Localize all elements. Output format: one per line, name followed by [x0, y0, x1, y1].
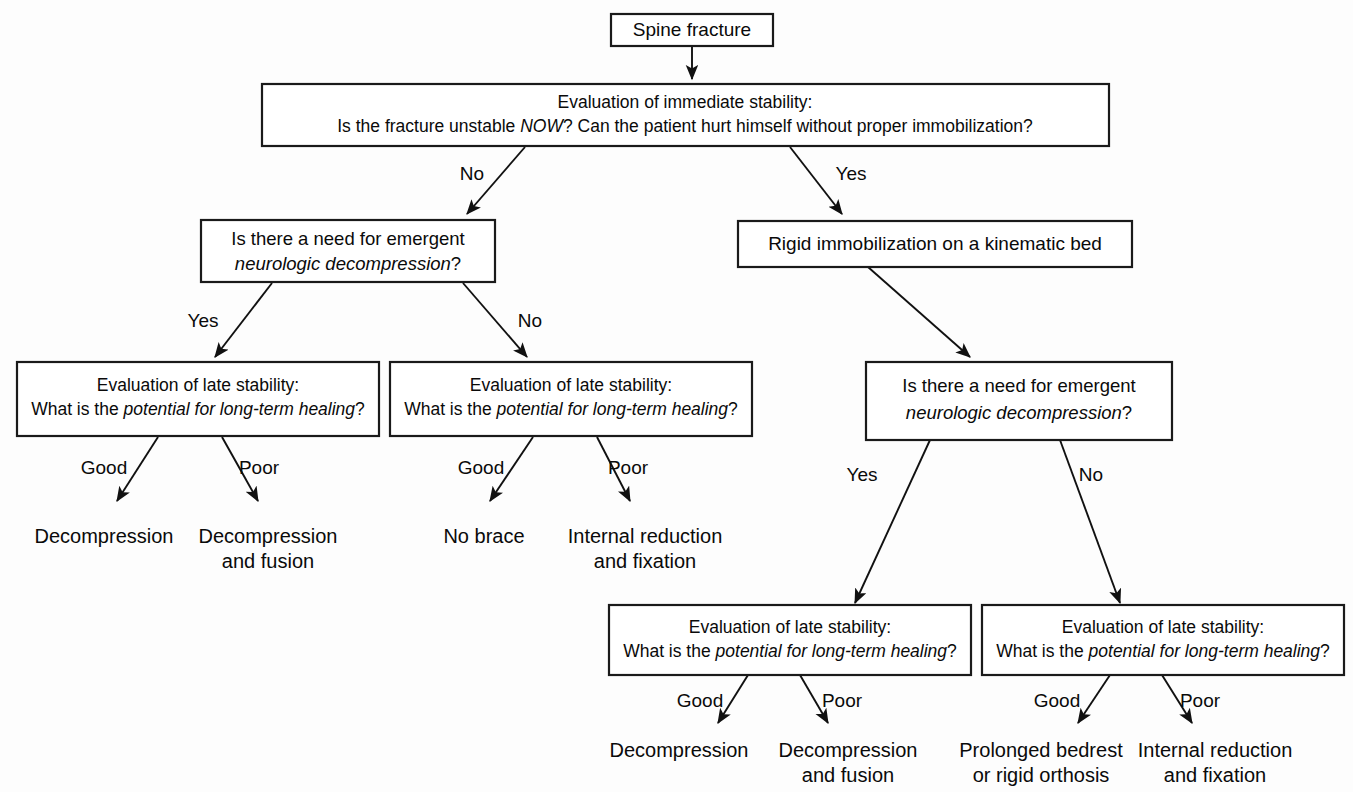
- neuro-right-tail: ?: [1122, 402, 1132, 423]
- node-root[interactable]: Spine fracture: [611, 14, 773, 46]
- edge-label-ls1-poor: Poor: [239, 457, 280, 478]
- node-immediate-stability-line1: Evaluation of immediate stability:: [558, 92, 813, 112]
- node-late-stability-3[interactable]: Evaluation of late stability: What is th…: [609, 605, 971, 675]
- edge-immediate-yes: [790, 147, 842, 214]
- edge-neuro-left-yes: [215, 283, 272, 357]
- outcome-ls3-poor: Decompression and fusion: [779, 739, 918, 786]
- edge-ls4-good: [1078, 675, 1110, 723]
- node-late-stability-4-line1: Evaluation of late stability:: [1062, 617, 1264, 637]
- neuro-left-tail: ?: [451, 253, 461, 274]
- outcome-ls1-good-line1: Decompression: [35, 525, 174, 547]
- outcome-ls2-poor-line1: Internal reduction: [568, 525, 723, 547]
- edge-label-neuro-right-no: No: [1079, 464, 1103, 485]
- edge-rigid-to-neuro-right: [868, 267, 970, 357]
- node-late-stability-4-line2: What is the potential for long-term heal…: [996, 641, 1330, 661]
- outcome-ls1-poor-line1: Decompression: [199, 525, 338, 547]
- outcome-ls4-poor: Internal reduction and fixation: [1138, 739, 1293, 786]
- outcome-ls4-good-line1: Prolonged bedrest: [959, 739, 1123, 761]
- outcome-ls4-good: Prolonged bedrest or rigid orthosis: [959, 739, 1123, 786]
- node-neurologic-decompression-left[interactable]: Is there a need for emergent neurologic …: [201, 220, 495, 282]
- edge-label-ls3-poor: Poor: [822, 690, 863, 711]
- node-late-stability-1[interactable]: Evaluation of late stability: What is th…: [17, 362, 379, 436]
- ls4-l2a: What is the: [996, 641, 1088, 661]
- edge-label-neuro-left-no: No: [518, 310, 542, 331]
- imm-l2b: ? Can the patient hurt himself without p…: [563, 116, 1033, 136]
- node-neuro-left-line2: neurologic decompression?: [235, 253, 461, 274]
- node-late-stability-4[interactable]: Evaluation of late stability: What is th…: [982, 605, 1344, 675]
- node-immediate-stability-line2: Is the fracture unstable NOW? Can the pa…: [337, 116, 1033, 136]
- ls1-l2b: ?: [355, 399, 365, 419]
- outcome-ls2-good-line1: No brace: [443, 525, 524, 547]
- neuro-left-italic: neurologic decompression: [235, 253, 451, 274]
- node-late-stability-2-line1: Evaluation of late stability:: [470, 375, 672, 395]
- node-late-stability-1-line2: What is the potential for long-term heal…: [31, 399, 365, 419]
- edge-label-ls2-good: Good: [458, 457, 504, 478]
- node-root-label: Spine fracture: [633, 19, 751, 40]
- ls1-l2a: What is the: [31, 399, 123, 419]
- outcome-ls1-poor: Decompression and fusion: [199, 525, 338, 572]
- outcome-ls4-poor-line2: and fixation: [1164, 764, 1266, 786]
- ls3-l2a: What is the: [623, 641, 715, 661]
- ls1-l2-italic: potential for long-term healing: [123, 399, 356, 419]
- ls4-l2-italic: potential for long-term healing: [1088, 641, 1321, 661]
- edge-label-ls2-poor: Poor: [608, 457, 649, 478]
- decision-tree-diagram: No Yes Yes No Yes No Good Poor Good Poor…: [0, 0, 1353, 792]
- node-immediate-stability[interactable]: Evaluation of immediate stability: Is th…: [262, 84, 1109, 146]
- outcome-ls2-poor: Internal reduction and fixation: [568, 525, 723, 572]
- outcome-ls1-poor-line2: and fusion: [222, 550, 314, 572]
- imm-l2-italic: NOW: [520, 116, 564, 136]
- edge-label-ls4-poor: Poor: [1180, 690, 1221, 711]
- node-late-stability-1-line1: Evaluation of late stability:: [97, 375, 299, 395]
- node-neuro-right-line2: neurologic decompression?: [906, 402, 1132, 423]
- ls3-l2-italic: potential for long-term healing: [715, 641, 948, 661]
- node-rigid-immobilization-label: Rigid immobilization on a kinematic bed: [768, 233, 1102, 254]
- node-neuro-left-line1: Is there a need for emergent: [231, 228, 464, 249]
- imm-l2a: Is the fracture unstable: [337, 116, 520, 136]
- ls2-l2b: ?: [728, 399, 738, 419]
- node-neurologic-decompression-right[interactable]: Is there a need for emergent neurologic …: [866, 362, 1172, 440]
- node-late-stability-3-line1: Evaluation of late stability:: [689, 617, 891, 637]
- edge-label-neuro-right-yes: Yes: [847, 464, 878, 485]
- outcome-ls2-poor-line2: and fixation: [594, 550, 696, 572]
- outcome-ls4-poor-line1: Internal reduction: [1138, 739, 1293, 761]
- node-late-stability-2-line2: What is the potential for long-term heal…: [404, 399, 738, 419]
- ls4-l2b: ?: [1320, 641, 1330, 661]
- outcome-ls3-poor-line1: Decompression: [779, 739, 918, 761]
- neuro-right-italic: neurologic decompression: [906, 402, 1122, 423]
- edge-label-neuro-left-yes: Yes: [188, 310, 219, 331]
- outcome-ls4-good-line2: or rigid orthosis: [973, 764, 1110, 786]
- ls2-l2a: What is the: [404, 399, 496, 419]
- node-rigid-immobilization[interactable]: Rigid immobilization on a kinematic bed: [738, 221, 1132, 267]
- edge-label-ls4-good: Good: [1034, 690, 1080, 711]
- node-late-stability-3-line2: What is the potential for long-term heal…: [623, 641, 957, 661]
- outcome-ls1-good: Decompression: [35, 525, 174, 547]
- ls3-l2b: ?: [947, 641, 957, 661]
- edge-label-immediate-yes: Yes: [836, 163, 867, 184]
- outcome-ls3-good: Decompression: [610, 739, 749, 761]
- edge-label-immediate-no: No: [460, 163, 484, 184]
- edge-label-ls1-good: Good: [81, 457, 127, 478]
- ls2-l2-italic: potential for long-term healing: [496, 399, 729, 419]
- outcome-ls3-poor-line2: and fusion: [802, 764, 894, 786]
- outcome-ls2-good: No brace: [443, 525, 524, 547]
- outcome-ls3-good-line1: Decompression: [610, 739, 749, 761]
- edge-label-ls3-good: Good: [677, 690, 723, 711]
- flowchart-canvas: No Yes Yes No Yes No Good Poor Good Poor…: [0, 0, 1353, 792]
- node-neuro-right-line1: Is there a need for emergent: [902, 375, 1135, 396]
- node-late-stability-2[interactable]: Evaluation of late stability: What is th…: [390, 362, 752, 436]
